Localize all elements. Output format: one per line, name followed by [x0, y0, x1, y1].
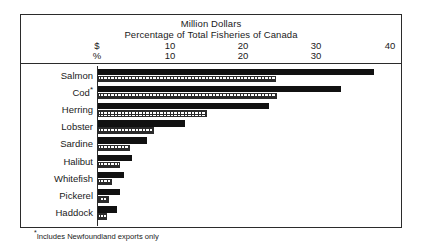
- chart-header: Million Dollars Percentage of Total Fish…: [21, 15, 401, 63]
- chart-frame: Million Dollars Percentage of Total Fish…: [20, 14, 402, 228]
- bar-dollars-whitefish: [98, 172, 124, 178]
- category-label-haddock: Haddock: [56, 207, 94, 218]
- bar-row-haddock: Haddock: [21, 205, 401, 222]
- bar-percent-sardine: [98, 145, 130, 151]
- axis-tick-row-percent: % 10 20 30: [21, 50, 401, 62]
- bar-row-whitefish: Whitefish: [21, 170, 401, 187]
- axis-tick-percent-10: 10: [157, 50, 183, 62]
- category-label-pickerel: Pickerel: [59, 190, 93, 201]
- bar-dollars-pickerel: [98, 189, 120, 195]
- bar-percent-herring: [98, 110, 207, 116]
- chart-title-percentage: Percentage of Total Fisheries of Canada: [21, 29, 401, 40]
- axis-tick-percent-30: 30: [303, 50, 329, 62]
- bar-dollars-haddock: [98, 206, 117, 212]
- bar-dollars-halibut: [98, 155, 132, 161]
- bar-percent-pickerel: [98, 196, 109, 202]
- plot-area: Salmon Cod* Herring Lobster Sardine: [21, 64, 401, 228]
- chart-footnote: *Includes Newfoundland exports only: [34, 232, 159, 242]
- bar-dollars-herring: [98, 103, 269, 109]
- axis-symbol-percent: %: [87, 50, 107, 62]
- bar-percent-salmon: [98, 76, 276, 82]
- category-label-salmon: Salmon: [61, 70, 93, 81]
- fisheries-bar-chart-figure: Million Dollars Percentage of Total Fish…: [0, 0, 422, 251]
- bar-percent-whitefish: [98, 179, 112, 185]
- category-label-lobster: Lobster: [61, 121, 93, 132]
- bar-dollars-cod: [98, 86, 341, 92]
- category-label-sardine: Sardine: [60, 138, 93, 149]
- bar-percent-lobster: [98, 127, 154, 133]
- category-label-whitefish: Whitefish: [54, 173, 93, 184]
- chart-title-million-dollars: Million Dollars: [21, 18, 401, 29]
- category-label-cod: Cod*: [72, 87, 93, 98]
- bar-row-salmon: Salmon: [21, 67, 401, 84]
- bar-row-pickerel: Pickerel: [21, 187, 401, 204]
- bar-dollars-salmon: [98, 69, 374, 75]
- bar-row-cod: Cod*: [21, 84, 401, 101]
- bar-row-sardine: Sardine: [21, 136, 401, 153]
- axis-tick-percent-20: 20: [230, 50, 256, 62]
- bar-row-herring: Herring: [21, 101, 401, 118]
- bar-dollars-sardine: [98, 137, 147, 143]
- bar-percent-haddock: [98, 213, 107, 219]
- category-label-herring: Herring: [62, 104, 93, 115]
- bar-row-lobster: Lobster: [21, 119, 401, 136]
- bar-percent-halibut: [98, 162, 120, 168]
- category-label-halibut: Halibut: [63, 156, 93, 167]
- bar-row-halibut: Halibut: [21, 153, 401, 170]
- bar-dollars-lobster: [98, 120, 185, 126]
- bar-percent-cod: [98, 93, 277, 99]
